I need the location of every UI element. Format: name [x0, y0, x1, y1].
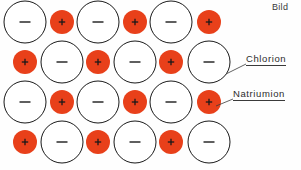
chloride-ion	[150, 1, 192, 43]
figure-caption: Bild	[272, 2, 288, 12]
chloride-ion	[41, 121, 83, 163]
nacl-lattice-figure: Bild Chlorion Natriumion	[0, 0, 301, 170]
label-chlorion: Chlorion	[246, 53, 286, 66]
sodium-ion	[197, 90, 221, 114]
label-natriumion: Natriumion	[233, 88, 285, 101]
chloride-ion	[4, 81, 46, 123]
sodium-ion	[50, 90, 74, 114]
chloride-ion	[77, 1, 119, 43]
sodium-ion	[13, 50, 37, 74]
lattice-diagram	[0, 0, 301, 170]
chloride-ion	[41, 41, 83, 83]
chloride-ion	[114, 41, 156, 83]
ion-layer	[4, 1, 230, 163]
chloride-ion	[77, 81, 119, 123]
sodium-ion	[197, 10, 221, 34]
sodium-ion	[123, 90, 147, 114]
sodium-ion	[123, 10, 147, 34]
sodium-ion	[86, 130, 110, 154]
sodium-ion	[159, 50, 183, 74]
sodium-ion	[50, 10, 74, 34]
sodium-ion	[13, 130, 37, 154]
chloride-ion	[188, 41, 230, 83]
chloride-ion	[4, 1, 46, 43]
chloride-ion	[150, 81, 192, 123]
sodium-ion	[86, 50, 110, 74]
sodium-ion	[159, 130, 183, 154]
chloride-ion	[114, 121, 156, 163]
chloride-ion	[188, 121, 230, 163]
